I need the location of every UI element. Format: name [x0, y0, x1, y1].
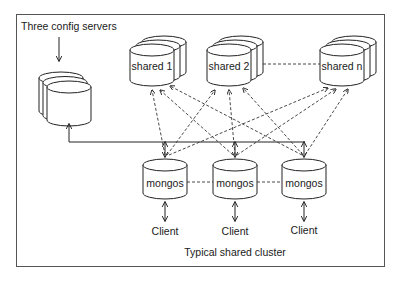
client-2-label: Client — [222, 225, 249, 237]
mongos-3-label: mongos — [285, 177, 322, 189]
shard-1-label: shared 1 — [132, 60, 173, 72]
client-1-label: Client — [152, 225, 179, 237]
mongos-2-label: mongos — [216, 177, 253, 189]
shard-n-label: shared n — [322, 60, 363, 72]
mongos-1-label: mongos — [146, 177, 183, 189]
client-3-label: Client — [291, 224, 318, 236]
shard-2-label: shared 2 — [209, 60, 250, 72]
config-servers-stack — [39, 72, 91, 126]
diagram-caption: Typical shared cluster — [184, 246, 286, 258]
cluster-diagram: Three config servers shared 1 shared 2 — [0, 0, 396, 282]
config-servers-label: Three config servers — [21, 20, 117, 32]
mongos-shard-mesh — [152, 86, 348, 155]
